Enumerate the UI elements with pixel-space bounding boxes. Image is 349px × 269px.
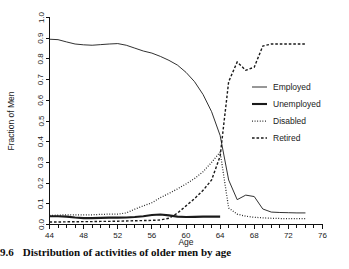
- series-line-employed: [50, 39, 306, 213]
- x-tick-label: 44: [45, 231, 54, 240]
- y-tick-label: 0.5: [37, 115, 46, 127]
- legend-label-unemployed: Unemployed: [273, 99, 321, 109]
- y-tick-label: 0.3: [37, 156, 46, 168]
- x-tick-label: 56: [147, 231, 156, 240]
- series-line-retired: [50, 44, 306, 222]
- y-tick-label: 0.4: [37, 136, 46, 148]
- y-axis-ticks: [46, 18, 50, 225]
- x-tick-label: 48: [79, 231, 88, 240]
- figure-container: 0.00.10.20.30.40.50.60.70.80.91.0 444852…: [0, 0, 349, 269]
- x-tick-label: 68: [250, 231, 259, 240]
- y-tick-label: 0.7: [37, 73, 46, 85]
- y-tick-label: 1.0: [37, 11, 46, 23]
- y-axis-tick-labels: 0.00.10.20.30.40.50.60.70.80.91.0: [37, 11, 46, 230]
- x-tick-label: 72: [284, 231, 293, 240]
- y-tick-label: 0.2: [37, 177, 46, 189]
- x-tick-label: 52: [113, 231, 122, 240]
- chart-legend: EmployedUnemployedDisabledRetired: [252, 82, 321, 143]
- y-tick-label: 0.6: [37, 94, 46, 106]
- x-axis-major-ticks: [50, 225, 323, 229]
- figure-caption: 9.6Distribution of activities of older m…: [0, 246, 349, 258]
- legend-label-employed: Employed: [273, 82, 311, 92]
- y-axis-title: Fraction of Men: [6, 91, 16, 150]
- y-tick-label: 0.0: [37, 218, 46, 230]
- caption-text: Distribution of activities of older men …: [23, 246, 231, 258]
- y-tick-label: 0.9: [37, 32, 46, 44]
- data-series-group: [50, 39, 306, 222]
- y-tick-label: 0.1: [37, 198, 46, 210]
- y-tick-label: 0.8: [37, 53, 46, 65]
- series-line-disabled: [50, 152, 306, 219]
- x-tick-label: 76: [318, 231, 327, 240]
- x-tick-label: 64: [216, 231, 225, 240]
- series-line-unemployed: [50, 215, 221, 219]
- legend-label-disabled: Disabled: [273, 116, 306, 126]
- activities-by-age-line-chart: 0.00.10.20.30.40.50.60.70.80.91.0 444852…: [0, 0, 349, 269]
- legend-label-retired: Retired: [273, 133, 301, 143]
- caption-number: 9.6: [0, 246, 14, 258]
